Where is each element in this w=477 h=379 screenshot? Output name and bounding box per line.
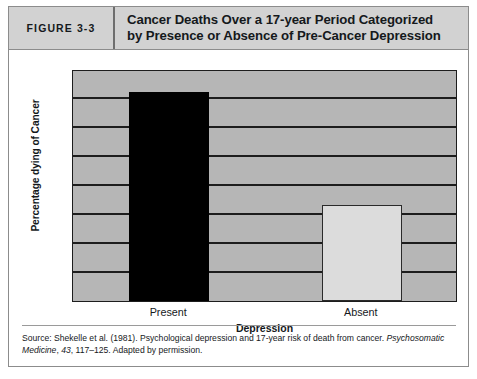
figure-header: FIGURE 3-3 Cancer Deaths Over a 17-year … [9, 7, 468, 50]
figure-title: Cancer Deaths Over a 17-year Period Cate… [115, 7, 468, 49]
x-tick-label-absent: Absent [291, 306, 431, 318]
x-tick-label-present: Present [98, 306, 238, 318]
plot-area [72, 70, 457, 302]
bar-present [129, 92, 209, 301]
chart-region: Percentage dying of Cancer Depression 01… [9, 50, 468, 327]
figure-number-label: FIGURE 3-3 [27, 22, 96, 34]
source-divider [22, 325, 456, 326]
figure-number-cell: FIGURE 3-3 [9, 7, 115, 49]
source-text: Source: Shekelle et al. (1981). Psycholo… [22, 333, 386, 343]
figure-title-line-2: by Presence or Absence of Pre-Cancer Dep… [127, 28, 468, 45]
y-axis-title: Percentage dying of Cancer [30, 66, 41, 266]
source-volume: 43 [61, 345, 71, 355]
source-note: Source: Shekelle et al. (1981). Psycholo… [22, 332, 458, 357]
figure-container: FIGURE 3-3 Cancer Deaths Over a 17-year … [8, 6, 469, 367]
bar-absent [322, 205, 402, 301]
figure-title-line-1: Cancer Deaths Over a 17-year Period Cate… [127, 12, 468, 29]
source-pages: , 117–125. Adapted by permission. [71, 345, 203, 355]
